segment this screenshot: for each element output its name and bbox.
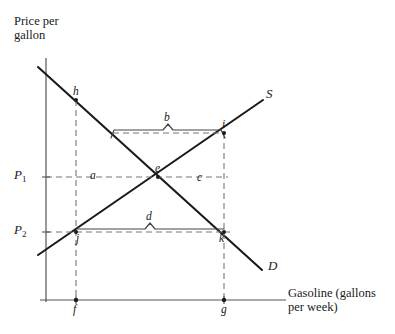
- point-dot-h: [74, 98, 78, 102]
- diagram-canvas: [0, 0, 395, 334]
- point-label-j: j: [76, 232, 79, 245]
- brace-d: [77, 223, 224, 229]
- brace-b: [111, 124, 225, 138]
- x-axis-title: Gasoline (gallons per week): [288, 286, 376, 314]
- point-dot-i: [222, 131, 226, 135]
- area-label-d: d: [146, 210, 152, 223]
- x-axis-title-line2: per week): [288, 300, 376, 314]
- point-dot-f: [74, 298, 78, 302]
- area-label-c: c: [197, 171, 202, 184]
- y-axis-title-line1: Price per: [14, 14, 59, 28]
- price-tick-p2-sub: 2: [22, 229, 27, 239]
- demand-curve: [38, 67, 262, 270]
- area-label-a: a: [90, 169, 96, 182]
- point-label-g: g: [221, 303, 227, 316]
- point-dot-e: [156, 175, 160, 179]
- y-axis-title: Price per gallon: [14, 14, 59, 42]
- price-tick-p1: P1: [14, 168, 26, 183]
- supply-demand-figure: Price per gallon Gasoline (gallons per w…: [0, 0, 395, 334]
- price-tick-p2-letter: P: [14, 222, 22, 237]
- x-axis-title-line1: Gasoline (gallons: [288, 286, 376, 300]
- demand-curve-label: D: [268, 259, 277, 274]
- supply-curve-label: S: [266, 87, 273, 102]
- point-dot-g: [222, 298, 226, 302]
- price-tick-p2: P2: [14, 223, 26, 238]
- area-label-b: b: [164, 111, 170, 124]
- point-label-f: f: [73, 303, 76, 316]
- point-label-i: i: [222, 118, 225, 131]
- y-axis-title-line2: gallon: [14, 28, 59, 42]
- price-tick-p1-sub: 1: [22, 174, 27, 184]
- price-tick-p1-letter: P: [14, 167, 22, 182]
- point-label-k: k: [219, 232, 224, 245]
- point-label-h: h: [73, 85, 79, 98]
- point-label-e: e: [155, 162, 160, 175]
